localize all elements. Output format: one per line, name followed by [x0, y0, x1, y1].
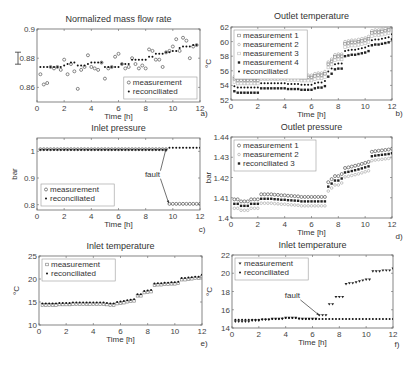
data-point — [63, 65, 65, 67]
data-point — [280, 199, 282, 201]
y-tick-label: 1.41 — [213, 194, 229, 203]
data-point — [70, 62, 72, 64]
x-tick-label: 10 — [361, 220, 370, 229]
data-point — [330, 182, 332, 184]
data-point — [60, 66, 62, 68]
data-point — [43, 149, 45, 151]
x-tick-label: 10 — [362, 330, 371, 339]
legend-marker — [238, 162, 240, 164]
x-tick-label: 10 — [361, 102, 370, 111]
data-point — [301, 318, 303, 320]
data-point — [181, 277, 183, 279]
x-tick-label: 12 — [389, 330, 398, 339]
data-point — [334, 63, 336, 65]
data-point — [381, 38, 383, 40]
data-point — [189, 147, 191, 149]
data-point — [257, 203, 259, 205]
data-point — [354, 49, 356, 51]
data-point — [250, 92, 252, 94]
data-point — [374, 43, 376, 45]
data-point — [290, 199, 292, 201]
data-point — [113, 302, 115, 304]
data-point — [234, 319, 236, 321]
data-point — [65, 302, 67, 304]
data-point — [124, 63, 126, 65]
data-point — [145, 149, 147, 151]
data-point — [39, 66, 41, 68]
y-tick-label: 60 — [220, 38, 229, 47]
data-point — [285, 317, 287, 319]
data-point — [240, 92, 242, 94]
x-tick-label: 0 — [230, 330, 235, 339]
data-point — [312, 318, 314, 320]
data-point — [324, 80, 326, 82]
data-point — [75, 301, 77, 303]
data-point — [357, 168, 359, 170]
data-point — [238, 319, 240, 321]
data-point — [344, 50, 346, 52]
data-point — [274, 82, 276, 84]
data-point — [165, 51, 167, 53]
data-point — [251, 319, 253, 321]
data-point — [53, 149, 55, 151]
data-point — [94, 149, 96, 151]
data-point — [371, 39, 373, 41]
legend-marker — [239, 272, 241, 274]
data-point — [56, 66, 58, 68]
chart-title: Outlet pressure — [281, 122, 343, 132]
data-point — [314, 82, 316, 84]
chart-panel-f: Inlet temperature0246810121416182022Time… — [205, 240, 400, 349]
data-point — [357, 48, 359, 50]
data-point — [294, 88, 296, 90]
x-axis-label: Time [h] — [297, 110, 326, 119]
data-point — [341, 63, 343, 65]
y-axis-label: °C — [12, 286, 21, 295]
data-point — [67, 63, 69, 65]
y-tick-label: 1.4 — [218, 214, 230, 223]
y-tick-label: 0.9 — [24, 174, 36, 183]
data-point — [237, 203, 239, 205]
data-point — [107, 149, 109, 151]
data-point — [96, 301, 98, 303]
data-point — [364, 46, 366, 48]
data-point — [101, 62, 103, 64]
data-point — [240, 87, 242, 89]
legend-entry: measurement — [244, 259, 294, 268]
data-point — [391, 152, 393, 154]
data-point — [277, 198, 279, 200]
y-tick-label: 58 — [220, 52, 229, 61]
data-point — [114, 66, 116, 68]
legend-entry: measurement 2 — [243, 40, 299, 49]
data-point — [73, 149, 75, 151]
data-point — [250, 203, 252, 205]
fault-annotation: fault — [145, 170, 161, 179]
data-point — [334, 179, 336, 181]
data-point — [241, 319, 243, 321]
data-point — [294, 83, 296, 85]
data-point — [391, 38, 393, 40]
data-point — [307, 89, 309, 91]
data-point — [150, 289, 152, 291]
data-point — [201, 274, 203, 276]
data-point — [253, 203, 255, 205]
data-point — [175, 147, 177, 149]
x-tick-label: 8 — [143, 104, 148, 113]
data-point — [270, 87, 272, 89]
x-tick-label: 10 — [168, 104, 177, 113]
data-point — [70, 149, 72, 151]
x-tick-label: 2 — [62, 212, 67, 221]
legend-entry: reconciliated — [243, 67, 288, 76]
data-point — [153, 283, 155, 285]
x-tick-label: 4 — [89, 212, 94, 221]
legend-entry: reconciliated 3 — [243, 159, 295, 168]
data-point — [67, 149, 69, 151]
data-point — [287, 88, 289, 90]
x-tick-label: 10 — [170, 327, 179, 336]
data-point — [267, 198, 269, 200]
data-point — [170, 281, 172, 283]
x-tick-label: 12 — [388, 220, 397, 229]
data-point — [148, 149, 150, 151]
data-point — [317, 86, 319, 88]
chart-title: Outlet temperature — [274, 11, 349, 21]
figure: Normalized mass flow rate0246810120.860.… — [0, 0, 419, 368]
